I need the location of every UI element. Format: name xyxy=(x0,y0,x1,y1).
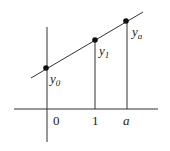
label-ya: ya xyxy=(130,24,143,41)
x-tick-0: 0 xyxy=(53,113,60,128)
label-y1: y1 xyxy=(97,43,109,60)
label-y0: y0 xyxy=(48,71,61,88)
linear-function-diagram: y0 y1 ya 0 1 a xyxy=(0,0,170,151)
point-ya xyxy=(123,18,129,24)
x-tick-1: 1 xyxy=(92,113,99,128)
point-y0 xyxy=(43,65,49,71)
point-y1 xyxy=(92,37,98,43)
x-tick-a: a xyxy=(123,113,130,128)
